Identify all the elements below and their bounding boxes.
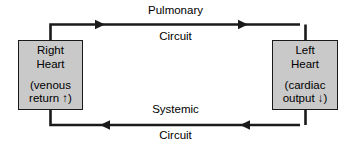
- left-heart-title: Left Heart: [291, 44, 319, 71]
- systemic-label: Systemic: [0, 103, 351, 115]
- right-heart-box: Right Heart (venous return ↑): [18, 40, 83, 110]
- left-heart-note: (cardiac output ↓): [283, 79, 328, 106]
- arrowhead-pulmonary-right: [238, 20, 248, 29]
- right-heart-title: Right Heart: [36, 44, 64, 71]
- left-heart-title-line2: Heart: [291, 58, 319, 70]
- arrowhead-pulmonary-left: [95, 20, 105, 29]
- right-heart-note: (venous return ↑): [29, 79, 72, 106]
- right-heart-title-line1: Right: [37, 44, 64, 56]
- right-heart-note-line1: (venous: [30, 79, 71, 91]
- pulmonary-circuit-label: Circuit: [0, 30, 351, 42]
- systemic-circuit-label: Circuit: [0, 129, 351, 141]
- left-heart-box: Left Heart (cardiac output ↓): [272, 40, 338, 110]
- circulatory-circuit-diagram: Right Heart (venous return ↑) Left Heart…: [0, 0, 351, 151]
- right-heart-title-line2: Heart: [36, 58, 64, 70]
- left-heart-note-line1: (cardiac: [285, 79, 326, 91]
- left-heart-title-line1: Left: [295, 44, 314, 56]
- pulmonary-label: Pulmonary: [0, 4, 351, 16]
